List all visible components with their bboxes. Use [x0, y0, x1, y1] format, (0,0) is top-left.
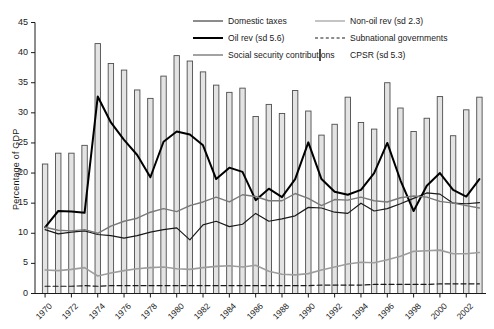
cpsr-bar — [424, 118, 429, 293]
legend-swatch-cpsr — [315, 50, 345, 60]
cpsr-bar — [82, 145, 87, 293]
y-tick-label: 30 — [12, 107, 28, 117]
y-tick-label: 45 — [12, 17, 28, 27]
cpsr-bar — [450, 136, 455, 294]
legend-label-oil-rev: Oil rev (sd 5.6) — [228, 33, 284, 43]
legend-swatch-social-security — [193, 50, 223, 60]
cpsr-bar — [411, 132, 416, 294]
y-tick-label: 5 — [12, 257, 28, 267]
legend-swatch-oil-rev — [193, 33, 223, 43]
cpsr-bar — [398, 108, 403, 293]
cpsr-bar — [187, 61, 192, 293]
cpsr-bar — [200, 72, 205, 294]
y-tick-label: 25 — [12, 137, 28, 147]
chart-figure: Percentage of GDP 051015202530354045 197… — [0, 0, 494, 329]
cpsr-bar — [42, 164, 47, 293]
chart-legend: Domestic taxes Non-oil rev (sd 2.3) Oil … — [193, 12, 491, 64]
legend-swatch-non-oil-rev — [315, 16, 345, 26]
legend-label-domestic-taxes: Domestic taxes — [228, 16, 287, 26]
y-tick-label: 10 — [12, 227, 28, 237]
cpsr-bar — [385, 83, 390, 294]
cpsr-bar — [148, 98, 153, 293]
legend-swatch-subnational-governments — [315, 33, 345, 43]
legend-item-social-security: Social security contributions — [193, 50, 315, 60]
cpsr-bar — [306, 111, 311, 293]
cpsr-bar — [108, 63, 113, 293]
legend-label-non-oil-rev: Non-oil rev (sd 2.3) — [350, 16, 423, 26]
cpsr-bar — [266, 104, 271, 293]
cpsr-bar — [464, 110, 469, 294]
cpsr-bar — [358, 122, 363, 293]
cpsr-bar — [477, 97, 482, 293]
cpsr-bar — [69, 153, 74, 293]
y-tick-label: 20 — [12, 167, 28, 177]
cpsr-bar — [135, 90, 140, 294]
cpsr-bar — [161, 76, 166, 293]
legend-item-oil-rev: Oil rev (sd 5.6) — [193, 33, 315, 43]
legend-item-domestic-taxes: Domestic taxes — [193, 16, 315, 26]
cpsr-bars-layer — [42, 44, 482, 294]
legend-swatch-domestic-taxes — [193, 16, 223, 26]
cpsr-bar — [174, 56, 179, 294]
cpsr-bar — [213, 85, 218, 293]
cpsr-bar — [95, 44, 100, 294]
legend-item-subnational-governments: Subnational governments — [315, 33, 491, 43]
cpsr-bar — [56, 153, 61, 293]
cpsr-bar — [279, 113, 284, 293]
legend-item-cpsr: CPSR (sd 5.3) — [315, 50, 491, 60]
y-tick-label: 40 — [12, 47, 28, 57]
cpsr-bar — [292, 91, 297, 294]
cpsr-bar — [121, 70, 126, 293]
legend-label-cpsr: CPSR (sd 5.3) — [350, 50, 405, 60]
y-tick-label: 15 — [12, 197, 28, 207]
legend-label-subnational-governments: Subnational governments — [350, 33, 447, 43]
legend-item-non-oil-rev: Non-oil rev (sd 2.3) — [315, 16, 491, 26]
y-tick-label: 0 — [12, 288, 28, 298]
y-tick-label: 35 — [12, 77, 28, 87]
cpsr-bar — [240, 88, 245, 293]
cpsr-bar — [227, 92, 232, 293]
